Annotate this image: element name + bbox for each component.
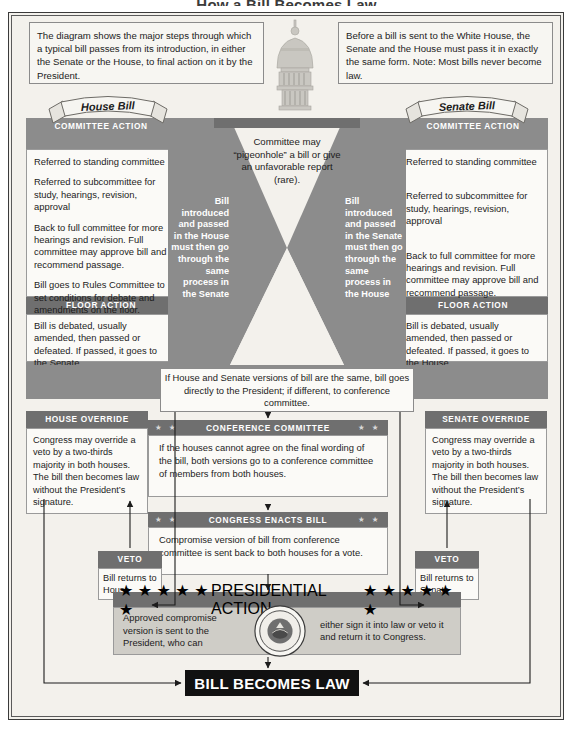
house-committee-item: Back to full committee for more hearings… — [34, 222, 168, 272]
house-channel-text: Bill introduced and passed in the House … — [171, 196, 229, 300]
house-committee-item: Referred to subcommittee for study, hear… — [34, 176, 168, 213]
senate-override-body: Congress may override a veto by a two-th… — [425, 428, 547, 514]
star-decoration-right: ★ ★ ★ ★ ★ ★ — [363, 581, 455, 619]
senate-floor-header: FLOOR ACTION — [398, 297, 548, 314]
star-decoration-right: ★ ★ — [358, 515, 381, 524]
senate-bill-label: Senate Bill — [439, 99, 497, 113]
bill-becomes-law-bar: BILL BECOMES LAW — [185, 670, 359, 696]
intro-right-text: Before a bill is sent to the White House… — [338, 22, 553, 84]
center-funnel: Committee may “pigeonhole” a bill or giv… — [168, 118, 406, 365]
presidential-action-left-text: Approved compromise version is sent to t… — [114, 612, 248, 649]
senate-override-box: SENATE OVERRIDE Congress may override a … — [425, 411, 547, 514]
veto-senate-header: VETO — [415, 551, 479, 568]
presidential-action-box: ★ ★ ★ ★ ★ ★ PRESIDENTIAL ACTION ★ ★ ★ ★ … — [113, 592, 461, 655]
house-override-box: HOUSE OVERRIDE Congress may override a v… — [26, 411, 148, 514]
diagram-page: How a Bill Becomes Law The diagram shows… — [0, 0, 573, 735]
star-decoration-left: ★ ★ — [155, 423, 178, 432]
house-bill-ribbon: House Bill — [47, 95, 169, 129]
senate-override-header: SENATE OVERRIDE — [425, 411, 547, 428]
senate-committee-item: Back to full committee for more hearings… — [406, 250, 540, 300]
house-panel: COMMITTEE ACTION Referred to standing co… — [26, 118, 176, 365]
house-override-body: Congress may override a veto by a two-th… — [26, 428, 148, 514]
house-bill-label: House Bill — [81, 99, 136, 113]
senate-floor-box: Bill is debated, usually amended, then p… — [398, 314, 548, 362]
conference-committee-body: If the houses cannot agree on the final … — [148, 435, 388, 497]
page-title: How a Bill Becomes Law — [0, 0, 573, 6]
star-decoration-right: ★ ★ — [358, 423, 381, 432]
conference-committee-header: ★ ★ CONFERENCE COMMITTEE ★ ★ — [148, 420, 388, 435]
presidential-seal-icon — [248, 604, 312, 658]
veto-house-header: VETO — [98, 551, 162, 568]
house-floor-text: Bill is debated, usually amended, then p… — [34, 320, 168, 370]
senate-panel: COMMITTEE ACTION Referred to standing co… — [398, 118, 548, 365]
house-committee-item: Referred to standing committee — [34, 156, 168, 168]
congress-enacts-body: Compromise version of bill from conferen… — [148, 527, 388, 575]
star-decoration-left: ★ ★ — [155, 515, 178, 524]
senate-committee-item: Referred to standing committee — [406, 156, 540, 168]
senate-committee-box: Referred to standing committee Referred … — [398, 149, 548, 297]
house-committee-box: Referred to standing committee Referred … — [26, 149, 176, 297]
conference-committee-box: ★ ★ CONFERENCE COMMITTEE ★ ★ If the hous… — [148, 420, 388, 497]
house-floor-box: Bill is debated, usually amended, then p… — [26, 314, 176, 362]
senate-committee-item: Referred to subcommittee for study, hear… — [406, 190, 540, 227]
congress-enacts-bill-box: ★ ★ CONGRESS ENACTS BILL ★ ★ Compromise … — [148, 512, 388, 575]
congress-enacts-header: ★ ★ CONGRESS ENACTS BILL ★ ★ — [148, 512, 388, 527]
same-versions-box: If House and Senate versions of bill are… — [160, 368, 414, 412]
pigeonhole-note: Committee may “pigeonhole” a bill or giv… — [229, 136, 345, 186]
senate-floor-text: Bill is debated, usually amended, then p… — [406, 320, 540, 370]
senate-channel-text: Bill introduced and passed in the Senate… — [345, 196, 403, 300]
house-override-header: HOUSE OVERRIDE — [26, 411, 148, 428]
senate-bill-ribbon: Senate Bill — [404, 95, 530, 129]
conference-committee-label: CONFERENCE COMMITTEE — [206, 423, 330, 433]
intro-left-text: The diagram shows the major steps throug… — [29, 22, 264, 84]
presidential-action-right-text: either sign it into law or veto it and r… — [312, 619, 450, 644]
congress-enacts-label: CONGRESS ENACTS BILL — [209, 515, 328, 525]
